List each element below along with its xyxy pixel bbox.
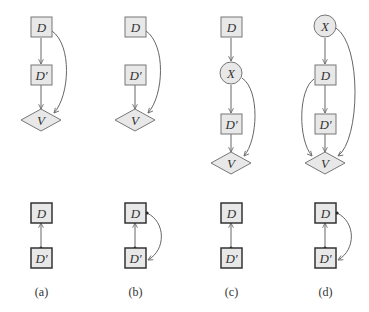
- svg-text:D′: D′: [34, 68, 47, 83]
- svg-text:D: D: [36, 206, 47, 221]
- edge-d-to-v-curved: [146, 31, 161, 113]
- diagram-canvas: D D′ V D D′ V: [0, 0, 369, 312]
- caption-a: (a): [35, 285, 48, 299]
- svg-text:D′: D′: [318, 117, 331, 132]
- edge-d-to-dprime-curved: [147, 213, 161, 260]
- panel-c-influence-diagram: D X D′ V: [211, 17, 255, 174]
- svg-text:D: D: [130, 206, 141, 221]
- svg-text:D: D: [36, 20, 47, 35]
- relevance-node-d: D: [221, 203, 242, 223]
- decision-node-dprime: D′: [31, 65, 52, 85]
- svg-text:X: X: [320, 19, 330, 34]
- caption-d: (d): [319, 285, 333, 299]
- svg-text:D′: D′: [128, 251, 141, 266]
- relevance-node-d: D: [125, 203, 146, 223]
- edge-d-to-v-curved: [302, 79, 314, 156]
- relevance-node-d: D: [315, 203, 336, 223]
- chance-node-x: X: [220, 62, 242, 84]
- panel-d-influence-diagram: X D D′ V: [302, 15, 355, 174]
- panel-d-relevance-graph: D D′ (d): [315, 203, 351, 299]
- decision-node-dprime: D′: [125, 65, 146, 85]
- svg-text:D: D: [226, 20, 237, 35]
- relevance-node-d: D: [31, 203, 52, 223]
- decision-node-dprime: D′: [221, 114, 242, 134]
- relevance-node-dprime: D′: [31, 248, 52, 268]
- panel-c-relevance-graph: D D′ (c): [221, 203, 242, 299]
- svg-text:D: D: [320, 206, 331, 221]
- svg-text:D′: D′: [224, 251, 237, 266]
- edge-d-to-dprime-curved: [337, 213, 351, 260]
- svg-text:D′: D′: [318, 251, 331, 266]
- svg-text:D: D: [226, 206, 237, 221]
- panel-a-influence-diagram: D D′ V: [21, 17, 67, 131]
- edge-x-to-v-curved: [336, 28, 355, 156]
- caption-b: (b): [129, 285, 143, 299]
- decision-node-d: D: [315, 65, 336, 85]
- decision-node-dprime: D′: [315, 114, 336, 134]
- relevance-node-dprime: D′: [221, 248, 242, 268]
- decision-node-d: D: [221, 17, 242, 37]
- svg-text:D′: D′: [128, 68, 141, 83]
- panel-b-relevance-graph: D D′ (b): [125, 203, 161, 299]
- svg-text:D′: D′: [224, 117, 237, 132]
- relevance-node-dprime: D′: [315, 248, 336, 268]
- chance-node-x: X: [314, 15, 336, 37]
- relevance-node-dprime: D′: [125, 248, 146, 268]
- decision-node-d: D: [125, 17, 146, 37]
- edge-x-to-v-curved: [242, 78, 255, 156]
- panel-b-influence-diagram: D D′ V: [115, 17, 161, 131]
- edge-d-to-v-curved: [52, 31, 67, 113]
- svg-text:D: D: [320, 68, 331, 83]
- decision-node-d: D: [31, 17, 52, 37]
- svg-text:D: D: [130, 20, 141, 35]
- svg-text:X: X: [226, 66, 236, 81]
- panel-a-relevance-graph: D D′ (a): [31, 203, 52, 299]
- svg-text:D′: D′: [34, 251, 47, 266]
- caption-c: (c): [225, 285, 238, 299]
